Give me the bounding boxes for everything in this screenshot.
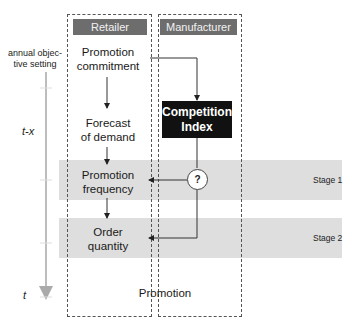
decision-question-node: ? — [187, 169, 208, 190]
promotion-footer-label: Promotion — [110, 286, 220, 300]
node-promotion-commitment: Promotion commitment — [72, 45, 144, 73]
node-promotion-frequency: Promotion frequency — [72, 168, 144, 196]
stage-2-label: Stage 2 — [313, 233, 342, 243]
node-competition-index: Competition Index — [162, 101, 232, 138]
node-order-quantity: Order quantity — [72, 225, 144, 253]
timeline-start-label: annual objec- tive setting — [4, 48, 66, 70]
timeline-mid-label: t-x — [22, 125, 34, 137]
node-forecast-of-demand: Forecast of demand — [72, 116, 144, 144]
timeline-end-label: t — [23, 289, 26, 301]
stage-1-label: Stage 1 — [313, 175, 342, 185]
